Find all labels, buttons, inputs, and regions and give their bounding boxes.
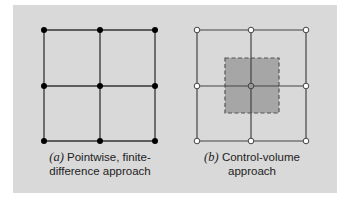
caption-panel-b: (b) Control-volume approach [182,150,322,178]
grid-node-filled [152,138,158,144]
grid-node-filled [41,27,47,33]
panel-b-caption-line2: approach [182,164,322,178]
grid-node-filled [97,138,103,144]
grid-node-filled [41,138,47,144]
grid-node-open [194,83,200,89]
grid-node-center [248,83,254,89]
grid-node-filled [97,83,103,89]
grid-node-open [194,27,200,33]
grid-node-filled [152,27,158,33]
grid-node-open [248,138,254,144]
caption-panel-a: (a) Pointwise, finite- difference approa… [30,150,170,178]
panel-b-label: (b) [204,150,219,164]
grid-node-filled [152,83,158,89]
grid-node-filled [41,83,47,89]
grid-node-open [303,27,309,33]
grid-node-open [194,138,200,144]
panel-a-caption-line1: Pointwise, finite- [67,151,151,163]
grid-node-open [248,27,254,33]
panel-a-caption-line2: difference approach [30,164,170,178]
panel-a-label: (a) [49,150,64,164]
panel-b-caption-line1: Control-volume [222,151,300,163]
grid-node-open [303,83,309,89]
grid-node-open [303,138,309,144]
grid-node-filled [97,27,103,33]
